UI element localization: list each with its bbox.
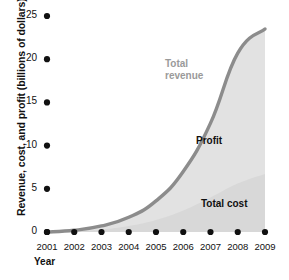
x-tick-label: 2003 [87, 241, 117, 252]
x-tick-label: 2005 [141, 241, 171, 252]
x-tick-label: 2007 [196, 241, 226, 252]
x-tick-label: 2001 [32, 241, 62, 252]
total-cost-label: Total cost [201, 198, 247, 209]
y-tick-dot [44, 186, 50, 192]
y-tick-label: 0 [11, 225, 37, 236]
x-tick-dot [126, 229, 132, 235]
chart-container: Revenue, cost, and profit (billions of d… [0, 0, 289, 280]
plot-area [0, 0, 289, 280]
y-tick-label: 5 [11, 182, 37, 193]
x-tick-dot [262, 229, 268, 235]
x-tick-dot [153, 229, 159, 235]
x-tick-label: 2009 [250, 241, 280, 252]
y-tick-label: 20 [11, 52, 37, 63]
total-revenue-label-line2: revenue [165, 70, 203, 81]
x-tick-dot [180, 229, 186, 235]
x-tick-label: 2006 [168, 241, 198, 252]
y-tick-dot [44, 13, 50, 19]
y-tick-label: 15 [11, 95, 37, 106]
x-tick-label: 2004 [114, 241, 144, 252]
y-axis-tick-dots [44, 13, 50, 235]
x-tick-dot [207, 229, 213, 235]
x-tick-label: 2002 [59, 241, 89, 252]
y-tick-dot [44, 143, 50, 149]
profit-label: Profit [196, 135, 222, 146]
x-axis-title: Year [34, 256, 55, 267]
x-tick-dot [98, 229, 104, 235]
total-revenue-label-line1: Total [165, 58, 188, 69]
y-tick-label: 25 [11, 9, 37, 20]
y-tick-dot [44, 99, 50, 105]
x-tick-dot [44, 229, 50, 235]
y-tick-label: 10 [11, 139, 37, 150]
y-tick-dot [44, 56, 50, 62]
x-tick-dot [71, 229, 77, 235]
total-revenue-label: Total revenue [165, 58, 203, 82]
x-tick-label: 2008 [223, 241, 253, 252]
x-tick-dot [235, 229, 241, 235]
